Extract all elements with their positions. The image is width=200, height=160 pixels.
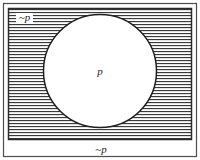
not-p-caption-bottom: ~p: [95, 143, 107, 155]
diagram-canvas: ~p p ~p: [0, 0, 200, 160]
not-p-label-top-left: ~p: [19, 11, 31, 23]
p-label-center: p: [96, 65, 103, 77]
not-p-label-group: ~p: [16, 11, 33, 23]
logic-diagram-figure: ~p p ~p: [0, 0, 200, 160]
